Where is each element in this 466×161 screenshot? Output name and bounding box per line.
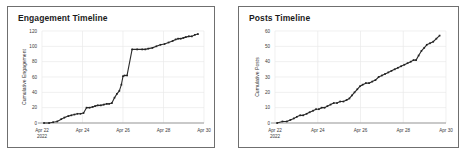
chart-title-posts: Posts Timeline (249, 13, 310, 23)
svg-text:Apr 24: Apr 24 (76, 128, 90, 133)
svg-text:Apr 28: Apr 28 (157, 128, 171, 133)
svg-text:0: 0 (267, 121, 270, 126)
svg-text:Apr 26: Apr 26 (354, 128, 368, 133)
svg-text:Apr 22: Apr 22 (268, 128, 282, 133)
svg-text:Apr 28: Apr 28 (396, 128, 410, 133)
screenshot-root: Engagement Timeline 020406080100120Apr 2… (0, 0, 466, 161)
svg-text:60: 60 (32, 75, 38, 80)
svg-text:Apr 22: Apr 22 (35, 128, 49, 133)
chart-panel-engagement: Engagement Timeline 020406080100120Apr 2… (7, 6, 215, 148)
svg-text:Apr 30: Apr 30 (439, 128, 453, 133)
svg-text:60: 60 (265, 29, 271, 34)
svg-text:30: 30 (265, 75, 271, 80)
svg-text:20: 20 (32, 105, 38, 110)
svg-text:Apr 30: Apr 30 (197, 128, 211, 133)
chart-panel-posts: Posts Timeline 0102030405060Apr 222022Ap… (238, 6, 459, 148)
svg-text:2022: 2022 (37, 134, 48, 139)
svg-text:80: 80 (32, 59, 38, 64)
svg-text:10: 10 (265, 105, 271, 110)
chart-plot-posts: 0102030405060Apr 222022Apr 24Apr 26Apr 2… (239, 23, 460, 149)
svg-text:0: 0 (34, 121, 37, 126)
svg-text:Apr 24: Apr 24 (311, 128, 325, 133)
svg-text:Cumulative Engagement: Cumulative Engagement (21, 49, 27, 105)
chart-title-engagement: Engagement Timeline (18, 13, 108, 23)
svg-text:2022: 2022 (270, 134, 281, 139)
svg-text:120: 120 (29, 29, 37, 34)
svg-text:100: 100 (29, 44, 37, 49)
svg-text:50: 50 (265, 44, 271, 49)
svg-text:Apr 26: Apr 26 (116, 128, 130, 133)
svg-text:40: 40 (32, 90, 38, 95)
chart-plot-engagement: 020406080100120Apr 222022Apr 24Apr 26Apr… (8, 23, 216, 149)
svg-text:20: 20 (265, 90, 271, 95)
svg-text:40: 40 (265, 59, 271, 64)
svg-text:Cumulative Posts: Cumulative Posts (254, 57, 260, 97)
